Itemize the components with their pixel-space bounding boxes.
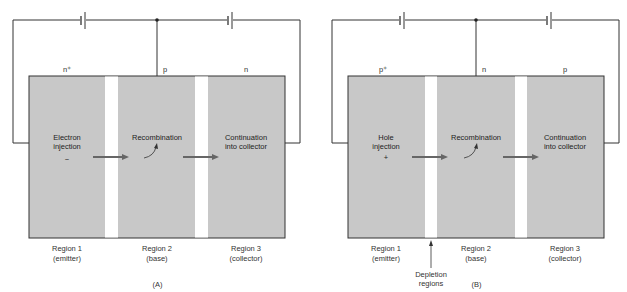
battery-icon	[400, 12, 404, 29]
charge-sign: −	[36, 155, 98, 164]
depletion-pointer-arrow	[429, 240, 433, 268]
region-3-text-line2: into collector	[208, 142, 284, 151]
region-3-role: (collector)	[208, 254, 284, 263]
region-3-text-line2: into collector	[527, 142, 603, 151]
region-1-name: Region 1	[36, 244, 98, 253]
region-1-role: (emitter)	[355, 254, 417, 263]
depletion-annotation-line2: regions	[406, 279, 456, 288]
type-label-base: n	[479, 65, 489, 74]
region-1-role: (emitter)	[36, 254, 98, 263]
type-label-emitter: p⁺	[373, 65, 393, 74]
region-2-role: (base)	[437, 254, 515, 263]
junction-dot	[155, 18, 159, 22]
region-2-text: Recombination	[118, 133, 196, 142]
type-label-collector: n	[236, 65, 256, 74]
region-3-name: Region 3	[208, 244, 284, 253]
region-1-text-line1: Hole	[355, 133, 417, 142]
region-1-text-line1: Electron	[36, 133, 98, 142]
panel-caption: (A)	[140, 280, 175, 289]
type-label-collector: p	[555, 65, 575, 74]
battery-icon	[547, 12, 551, 29]
region-2-name: Region 2	[437, 244, 515, 253]
panel-a: n⁺ p n Electron injection − Recombinatio…	[0, 0, 313, 292]
junction-dot	[474, 18, 478, 22]
region-2-text: Recombination	[437, 133, 515, 142]
region-1-text-line2: injection	[36, 142, 98, 151]
battery-icon	[81, 12, 85, 29]
charge-sign: +	[355, 153, 417, 162]
region-3-text-line1: Continuation	[208, 133, 284, 142]
type-label-base: p	[160, 65, 170, 74]
region-1-text-line2: injection	[355, 142, 417, 151]
region-3-name: Region 3	[527, 244, 603, 253]
depletion-annotation-line1: Depletion	[406, 270, 456, 279]
region-2-name: Region 2	[118, 244, 196, 253]
panel-caption: (B)	[459, 280, 494, 289]
region-1-name: Region 1	[355, 244, 417, 253]
region-3-text-line1: Continuation	[527, 133, 603, 142]
panel-b: p⁺ n p Hole injection + Recombination Co…	[317, 0, 627, 292]
region-2-role: (base)	[118, 254, 196, 263]
type-label-emitter: n⁺	[57, 65, 77, 74]
region-3-role: (collector)	[527, 254, 603, 263]
battery-icon	[228, 12, 232, 29]
